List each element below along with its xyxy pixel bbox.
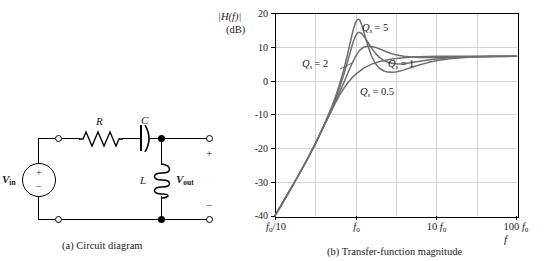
figure-root: + − Vin R C bbox=[0, 0, 552, 261]
curve-label-qs-5: Qs= 5 bbox=[362, 22, 388, 35]
curve-label-qs-1: Qs= 1 bbox=[388, 58, 414, 71]
curve-label-qs-2: Qs= 2 bbox=[302, 58, 328, 71]
curve-qs-0p5 bbox=[275, 56, 517, 216]
curve-group bbox=[0, 0, 552, 261]
curve-qs-5 bbox=[275, 19, 517, 216]
panel-b-caption: (b) Transfer-function magnitude bbox=[327, 246, 462, 257]
curve-label-qs-0p5: Qs= 0.5 bbox=[360, 86, 394, 99]
